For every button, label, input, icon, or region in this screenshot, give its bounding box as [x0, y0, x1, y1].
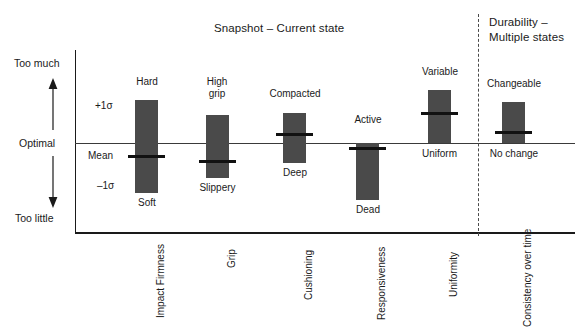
x-axis-category-label: Consistency over time [522, 229, 533, 327]
x-axis-category-label: Responsiveness [376, 247, 387, 320]
bar-top-label: Highgrip [200, 76, 234, 100]
range-bar [206, 115, 229, 178]
x-axis-line [75, 232, 575, 234]
range-bar [283, 113, 306, 163]
durability-section-title: Durability – Multiple states [489, 15, 564, 45]
bar-bottom-label: Uniform [416, 148, 463, 160]
y-axis-label-too-much: Too much [14, 57, 60, 69]
x-axis-category-label: Cushioning [303, 250, 314, 300]
x-axis-category-label: Impact Firmness [155, 244, 166, 318]
bar-top-label-line1: High [200, 76, 234, 88]
snapshot-section-title: Snapshot – Current state [214, 22, 344, 34]
bar-top-label: Hard [130, 76, 164, 88]
annotation-minus-one-sigma: –1σ [97, 180, 114, 191]
bar-top-label: Changeable [484, 78, 544, 90]
bar-top-label: Variable [417, 66, 463, 78]
y-axis-line [75, 50, 76, 233]
mean-marker [421, 112, 458, 115]
bar-top-label: Active [350, 114, 386, 126]
durability-title-line2: Multiple states [489, 30, 564, 45]
chart-canvas: Snapshot – Current state Durability – Mu… [0, 0, 588, 331]
bar-bottom-label: Deep [277, 167, 313, 179]
x-axis-category-label: Uniformity [448, 252, 459, 297]
range-bar [135, 100, 158, 193]
bar-bottom-label: Slippery [194, 182, 241, 194]
annotation-mean: Mean [88, 150, 113, 161]
bar-bottom-label: Soft [128, 197, 166, 209]
bar-top-label: Compacted [266, 88, 324, 100]
arrow-up-icon [46, 78, 60, 130]
bar-bottom-label: Dead [350, 204, 386, 216]
annotation-plus-one-sigma: +1σ [95, 100, 113, 111]
mean-marker [199, 160, 236, 163]
x-axis-category-label: Grip [226, 249, 237, 268]
y-axis-label-optimal: Optimal [19, 137, 55, 149]
range-bar [502, 102, 525, 143]
range-bar [428, 90, 451, 143]
bar-bottom-label: No change [486, 148, 542, 160]
mean-marker [128, 155, 165, 158]
durability-title-line1: Durability – [489, 15, 564, 30]
range-bar [356, 143, 379, 200]
section-divider-dashed-line [478, 14, 479, 236]
mean-marker [276, 133, 313, 136]
mean-marker [349, 147, 386, 150]
y-axis-label-too-little: Too little [15, 212, 54, 224]
bar-top-label-line2: grip [200, 88, 234, 100]
mean-marker [495, 131, 532, 134]
arrow-down-icon [46, 156, 60, 208]
